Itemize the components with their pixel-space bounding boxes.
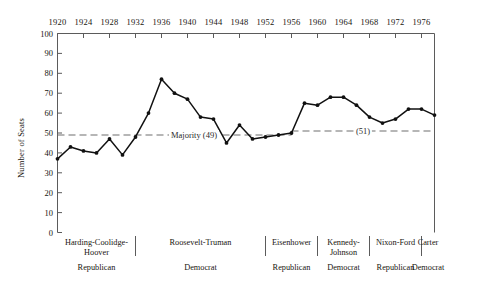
x-tick-label-1952: 1952 <box>257 17 275 27</box>
x-tick-label-1944: 1944 <box>205 17 223 27</box>
y-axis-title: Number of Seats <box>16 118 26 178</box>
chart-container: 1920192419281932193619401944194819521956… <box>0 0 477 281</box>
y-tick-label-60: 60 <box>30 108 53 118</box>
y-tick-label-100: 100 <box>30 29 53 39</box>
y-tick-label-0: 0 <box>30 228 53 238</box>
y-tick-label-40: 40 <box>30 148 53 158</box>
era-name-harding-coolidge-hoover: Harding-Coolidge-Hoover <box>60 238 134 258</box>
x-tick-label-1924: 1924 <box>75 17 93 27</box>
y-tick-label-10: 10 <box>30 208 53 218</box>
x-tick-label-1972: 1972 <box>387 17 405 27</box>
era-name-carter: Carter <box>407 238 449 248</box>
era-party-roosevelt-truman: Democrat <box>184 263 217 272</box>
x-tick-label-1932: 1932 <box>127 17 145 27</box>
era-name-kennedy-johnson: Kennedy-Johnson <box>320 238 368 258</box>
series-line-seats <box>58 79 435 159</box>
era-party-kennedy-johnson: Democrat <box>327 263 360 272</box>
majority-label-51: (51) <box>354 126 372 136</box>
era-name-roosevelt-truman: Roosevelt-Truman <box>138 238 264 248</box>
series-points-seats <box>56 77 437 160</box>
x-tick-label-1964: 1964 <box>335 17 353 27</box>
y-tick-label-90: 90 <box>30 48 53 58</box>
x-tick-label-1976: 1976 <box>413 17 431 27</box>
era-party-harding-coolidge-hoover: Republican <box>78 263 116 272</box>
majority-label-49: Majority (49) <box>169 130 219 140</box>
x-tick-label-1960: 1960 <box>309 17 327 27</box>
y-tick-label-20: 20 <box>30 188 53 198</box>
y-tick-label-70: 70 <box>30 88 53 98</box>
y-tick-label-30: 30 <box>30 168 53 178</box>
era-party-nixon-ford: Republican <box>377 263 415 272</box>
y-tick-label-80: 80 <box>30 68 53 78</box>
era-party-eisenhower: Republican <box>273 263 311 272</box>
x-tick-label-1956: 1956 <box>283 17 301 27</box>
era-name-eisenhower: Eisenhower <box>268 238 316 248</box>
x-tick-label-1940: 1940 <box>179 17 197 27</box>
y-tick-label-50: 50 <box>30 128 53 138</box>
x-tick-label-1928: 1928 <box>101 17 119 27</box>
era-party-carter: Democrat <box>412 263 445 272</box>
x-tick-label-1920: 1920 <box>49 17 67 27</box>
x-tick-label-1968: 1968 <box>361 17 379 27</box>
x-tick-label-1936: 1936 <box>153 17 171 27</box>
x-tick-label-1948: 1948 <box>231 17 249 27</box>
